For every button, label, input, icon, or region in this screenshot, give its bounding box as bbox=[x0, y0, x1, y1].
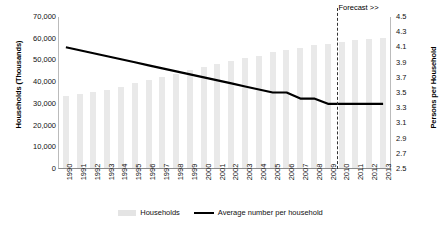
x-axis-ticks: 1990199119921993199419951996199719981999… bbox=[58, 170, 391, 210]
x-axis-tick: 2004 bbox=[256, 170, 262, 210]
x-axis-tick: 2010 bbox=[339, 170, 345, 210]
x-axis-tick: 1996 bbox=[145, 170, 151, 210]
x-axis-tick: 1998 bbox=[173, 170, 179, 210]
x-axis-tick: 2005 bbox=[270, 170, 276, 210]
x-axis-tick: 2000 bbox=[201, 170, 207, 210]
x-axis-tick-label: 2001 bbox=[218, 164, 227, 181]
x-axis-tick: 1992 bbox=[90, 170, 96, 210]
y-axis-left-tick: 70,000 bbox=[14, 13, 56, 21]
x-axis-tick-label: 1993 bbox=[107, 164, 116, 181]
legend-label: Households bbox=[140, 208, 180, 217]
x-axis-tick-label: 1995 bbox=[134, 164, 143, 181]
x-axis-tick: 2006 bbox=[284, 170, 290, 210]
x-axis-tick-label: 2004 bbox=[259, 164, 268, 181]
x-axis-tick-label: 1990 bbox=[65, 164, 74, 181]
x-axis-tick-label: 2007 bbox=[301, 164, 310, 181]
y-axis-right-tick: 2.9 bbox=[396, 135, 406, 143]
x-axis-tick: 2012 bbox=[367, 170, 373, 210]
x-axis-tick: 1999 bbox=[187, 170, 193, 210]
y-axis-right-ticks: 2.52.72.93.13.33.53.73.94.14.34.5 bbox=[396, 0, 426, 229]
x-axis-tick: 2009 bbox=[326, 170, 332, 210]
y-axis-left-tick: 50,000 bbox=[14, 56, 56, 64]
y-axis-left-tick: 20,000 bbox=[14, 122, 56, 130]
x-axis-tick-label: 1991 bbox=[79, 164, 88, 181]
y-axis-left-tick: 10,000 bbox=[14, 143, 56, 151]
y-axis-left-tick: 30,000 bbox=[14, 100, 56, 108]
x-axis-tick-label: 2002 bbox=[231, 164, 240, 181]
y-axis-right-tick: 3.3 bbox=[396, 104, 406, 112]
plot-area: Forecast >> bbox=[58, 17, 391, 169]
x-axis-tick-label: 2000 bbox=[204, 164, 213, 181]
x-axis-tick: 1997 bbox=[159, 170, 165, 210]
x-axis-tick-label: 1999 bbox=[190, 164, 199, 181]
legend-label: Average number per household bbox=[218, 208, 323, 217]
chart-legend: HouseholdsAverage number per household bbox=[0, 208, 441, 217]
x-axis-tick-label: 2008 bbox=[315, 164, 324, 181]
x-axis-tick: 1995 bbox=[131, 170, 137, 210]
x-axis-tick-label: 2013 bbox=[384, 164, 393, 181]
x-axis-tick-label: 2005 bbox=[273, 164, 282, 181]
x-axis-tick: 2013 bbox=[381, 170, 387, 210]
y-axis-right-tick: 3.1 bbox=[396, 119, 406, 127]
x-axis-tick-label: 2010 bbox=[342, 164, 351, 181]
y-axis-right-tick: 2.5 bbox=[396, 165, 406, 173]
y-axis-left-tick: 60,000 bbox=[14, 35, 56, 43]
y-axis-left-tick: 0 bbox=[14, 165, 56, 173]
y-axis-right-tick: 3.9 bbox=[396, 59, 406, 67]
x-axis-tick-label: 2012 bbox=[370, 164, 379, 181]
legend-bar-swatch-icon bbox=[118, 210, 136, 216]
x-axis-tick-label: 1994 bbox=[120, 164, 129, 181]
x-axis-tick: 1991 bbox=[76, 170, 82, 210]
x-axis-tick: 2008 bbox=[312, 170, 318, 210]
y-axis-right-tick: 4.3 bbox=[396, 28, 406, 36]
y-axis-right-tick: 4.1 bbox=[396, 43, 406, 51]
forecast-label: Forecast >> bbox=[337, 3, 379, 12]
x-axis-tick-label: 2006 bbox=[287, 164, 296, 181]
line-series bbox=[59, 17, 390, 168]
x-axis-tick: 2002 bbox=[228, 170, 234, 210]
y-axis-right-tick: 4.5 bbox=[396, 13, 406, 21]
chart-container: Households (Thousands) Persons per House… bbox=[0, 0, 441, 229]
y-axis-right-tick: 3.7 bbox=[396, 74, 406, 82]
legend-item: Average number per household bbox=[194, 208, 323, 217]
legend-line-swatch-icon bbox=[194, 212, 214, 214]
y-axis-right-title: Persons per Household bbox=[429, 28, 438, 148]
x-axis-tick-label: 1997 bbox=[162, 164, 171, 181]
x-axis-tick: 2011 bbox=[353, 170, 359, 210]
x-axis-tick: 1990 bbox=[62, 170, 68, 210]
x-axis-tick: 2001 bbox=[215, 170, 221, 210]
y-axis-right-tick: 3.5 bbox=[396, 89, 406, 97]
x-axis-tick-label: 2009 bbox=[329, 164, 338, 181]
x-axis-tick: 1994 bbox=[117, 170, 123, 210]
y-axis-right-tick: 2.7 bbox=[396, 150, 406, 158]
x-axis-tick: 2007 bbox=[298, 170, 304, 210]
x-axis-tick-label: 1992 bbox=[93, 164, 102, 181]
y-axis-left-ticks: 010,00020,00030,00040,00050,00060,00070,… bbox=[14, 0, 56, 229]
x-axis-tick-label: 1996 bbox=[148, 164, 157, 181]
x-axis-tick-label: 2003 bbox=[245, 164, 254, 181]
x-axis-tick-label: 2011 bbox=[356, 164, 365, 180]
y-axis-left-tick: 40,000 bbox=[14, 78, 56, 86]
forecast-divider-line bbox=[337, 8, 338, 169]
legend-item: Households bbox=[118, 208, 180, 217]
x-axis-tick-label: 1998 bbox=[176, 164, 185, 181]
x-axis-tick: 2003 bbox=[242, 170, 248, 210]
x-axis-tick: 1993 bbox=[104, 170, 110, 210]
